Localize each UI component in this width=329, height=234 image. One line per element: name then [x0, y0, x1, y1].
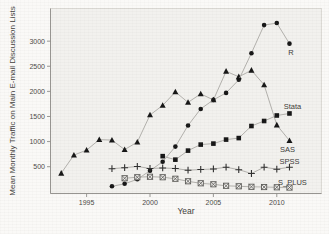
x-tick-label: 2000 [142, 199, 158, 206]
y-tick-label: 1000 [29, 138, 45, 145]
chart-figure: 500100015002000250030001995200020052010 … [0, 0, 329, 234]
data-point-marker [160, 154, 165, 159]
data-point-marker [110, 184, 115, 189]
series-label-R: R [288, 48, 294, 57]
x-tick-label: 1995 [79, 199, 95, 206]
data-point-marker [275, 21, 280, 26]
data-point-marker [160, 159, 165, 164]
data-point-marker [262, 119, 267, 124]
series-label-Stata: Stata [284, 102, 302, 111]
data-point-marker [122, 181, 127, 186]
y-tick-label: 2500 [29, 63, 45, 70]
y-tick-label: 3000 [29, 38, 45, 45]
data-point-marker [211, 98, 216, 103]
data-point-marker [249, 124, 254, 129]
data-point-marker [275, 113, 280, 118]
data-point-marker [224, 137, 229, 142]
data-point-marker [211, 141, 216, 146]
x-axis-title: Year [177, 206, 194, 216]
x-tick-label: 2005 [206, 199, 222, 206]
x-tick-label: 2010 [269, 199, 285, 206]
data-point-marker [262, 23, 267, 28]
y-tick-label: 500 [33, 163, 45, 170]
data-point-marker [173, 157, 178, 162]
series-label-SPSS: SPSS [279, 157, 299, 166]
data-point-marker [173, 144, 178, 149]
y-axis-title: Mean Monthly Traffic on Main E-mail Disc… [8, 6, 17, 195]
data-point-marker [186, 123, 191, 128]
series-label-S_PLUS: S_PLUS [278, 178, 307, 187]
data-point-marker [287, 41, 292, 46]
data-point-marker [224, 91, 229, 96]
data-point-marker [249, 51, 254, 56]
data-point-marker [287, 111, 292, 116]
y-tick-label: 2000 [29, 88, 45, 95]
data-point-marker [186, 148, 191, 153]
data-point-marker [236, 78, 241, 83]
data-point-marker [198, 107, 203, 112]
data-point-marker [236, 136, 241, 141]
traffic-line-chart: 500100015002000250030001995200020052010 … [0, 0, 329, 234]
y-tick-label: 1500 [29, 113, 45, 120]
data-point-marker [198, 142, 203, 147]
series-label-SAS: SAS [280, 145, 295, 154]
